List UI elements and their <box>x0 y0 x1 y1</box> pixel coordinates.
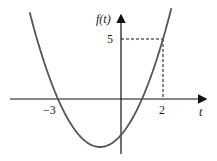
tick-label-neg3: −3 <box>43 104 56 116</box>
tick-label-5: 5 <box>107 33 113 45</box>
x-axis-label: t <box>199 106 202 118</box>
parabola-curve <box>30 8 172 147</box>
tick-label-2: 2 <box>159 104 165 116</box>
y-axis-label: f(t) <box>96 13 111 25</box>
function-graph: f(t) t −3 2 5 <box>0 0 217 161</box>
